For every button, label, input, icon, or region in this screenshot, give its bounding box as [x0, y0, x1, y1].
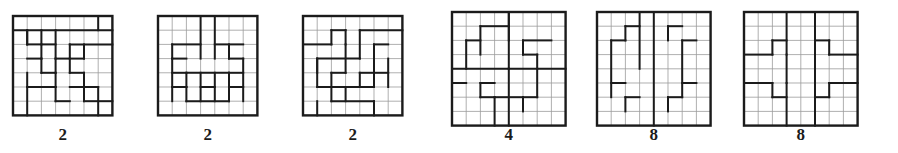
figure-2: 2 — [155, 0, 260, 153]
figure-1: 2 — [10, 0, 115, 153]
figure-row: 222488 — [0, 0, 898, 153]
grid-diagram-2 — [155, 13, 260, 118]
grid-diagram-6 — [741, 9, 861, 129]
figure-label-3: 2 — [300, 126, 405, 143]
grid-diagram-3 — [300, 13, 405, 118]
figure-6: 8 — [741, 0, 861, 153]
figure-label-4: 4 — [449, 126, 569, 143]
figure-label-1: 2 — [10, 126, 115, 143]
grid-diagram-1 — [10, 13, 115, 118]
figure-5: 8 — [594, 0, 714, 153]
figure-label-6: 8 — [741, 126, 861, 143]
grid-diagram-4 — [449, 9, 569, 129]
grid-diagram-5 — [594, 9, 714, 129]
figure-4: 4 — [449, 0, 569, 153]
figure-label-5: 8 — [594, 126, 714, 143]
figure-3: 2 — [300, 0, 405, 153]
figure-label-2: 2 — [155, 126, 260, 143]
